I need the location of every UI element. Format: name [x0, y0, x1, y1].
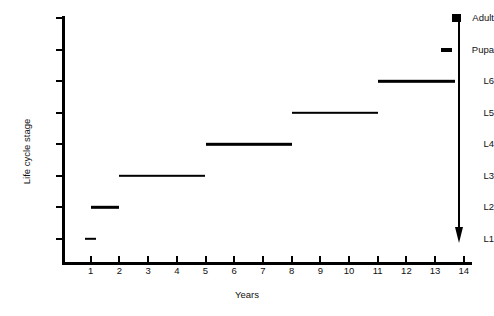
y-axis-tick-adult [56, 17, 63, 19]
x-axis-tick-8 [291, 256, 293, 263]
y-axis-title: Life cycle stage [21, 92, 32, 212]
y-axis-label-l3: L3 [440, 171, 494, 181]
x-axis-tick-3 [147, 256, 149, 263]
x-axis-label-5: 5 [196, 266, 216, 276]
life-cycle-stage-chart: L1L2L3L4L5L6PupaAdult 123456789101112131… [0, 0, 494, 316]
y-axis-label-l5: L5 [440, 108, 494, 118]
x-axis-tick-10 [348, 256, 350, 263]
y-axis-label-adult: Adult [440, 13, 494, 23]
data-segment-pupa [441, 48, 452, 52]
x-axis-tick-6 [233, 256, 235, 263]
x-axis-title: Years [0, 289, 494, 300]
y-axis-tick-l6 [56, 80, 63, 82]
x-axis-tick-1 [90, 256, 92, 263]
arrow-shaft [458, 17, 460, 231]
x-axis-label-6: 6 [224, 266, 244, 276]
x-axis-label-1: 1 [81, 266, 101, 276]
x-axis-tick-11 [377, 256, 379, 263]
y-axis-label-l1: L1 [440, 234, 494, 244]
y-axis-tick-l1 [56, 238, 63, 240]
x-axis-label-10: 10 [339, 266, 359, 276]
x-axis-label-14: 14 [454, 266, 474, 276]
data-segment-l3 [119, 175, 205, 177]
x-axis-label-13: 13 [425, 266, 445, 276]
x-axis-tick-4 [176, 256, 178, 263]
x-axis-label-9: 9 [310, 266, 330, 276]
x-axis-tick-7 [262, 256, 264, 263]
y-axis-tick-l2 [56, 206, 63, 208]
x-axis-label-11: 11 [368, 266, 388, 276]
x-axis-tick-12 [405, 256, 407, 263]
y-axis-tick-l3 [56, 175, 63, 177]
x-axis-label-4: 4 [167, 266, 187, 276]
x-axis-tick-5 [205, 256, 207, 263]
data-segment-l2 [91, 206, 120, 208]
x-axis-label-3: 3 [138, 266, 158, 276]
arrow-head [455, 227, 463, 243]
y-axis-line [62, 16, 65, 264]
data-segment-l1 [85, 238, 96, 240]
x-axis-label-2: 2 [109, 266, 129, 276]
x-axis-label-7: 7 [253, 266, 273, 276]
x-axis-tick-9 [319, 256, 321, 263]
x-axis-tick-14 [463, 256, 465, 263]
x-axis-label-8: 8 [282, 266, 302, 276]
data-segment-l6 [378, 80, 455, 82]
y-axis-tick-l4 [56, 143, 63, 145]
x-axis-label-12: 12 [396, 266, 416, 276]
data-segment-l5 [292, 112, 378, 114]
data-segment-l4 [206, 143, 292, 145]
x-axis-tick-13 [434, 256, 436, 263]
x-axis-tick-2 [118, 256, 120, 263]
y-axis-label-l4: L4 [440, 139, 494, 149]
y-axis-tick-l5 [56, 112, 63, 114]
y-axis-label-l2: L2 [440, 202, 494, 212]
y-axis-tick-pupa [56, 49, 63, 51]
